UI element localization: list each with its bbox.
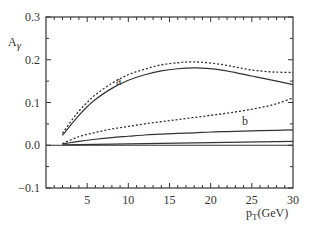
x-tick-label: 20	[205, 193, 217, 207]
x-tick-label: 5	[84, 193, 90, 207]
y-tick-label: −0.1	[18, 181, 40, 195]
y-tick-label: 0.0	[25, 138, 40, 152]
plot-frame	[46, 17, 293, 188]
axis-ticks	[46, 17, 293, 188]
curve-label-b: b	[242, 114, 248, 128]
chart: 51015202530−0.10.00.10.20.3 ab Aγ pT(GeV…	[0, 0, 314, 234]
curve-label-a: a	[116, 74, 122, 88]
curve-annotations: ab	[116, 74, 248, 127]
x-tick-label: 10	[122, 193, 134, 207]
x-tick-label: 25	[246, 193, 258, 207]
y-axis-title: Aγ	[8, 35, 22, 51]
curve-a-solid	[62, 68, 293, 136]
curve-b-dotted	[62, 98, 293, 144]
x-tick-label: 15	[164, 193, 176, 207]
curve-baseline-solid	[62, 141, 293, 144]
curves	[62, 62, 293, 145]
plot-border	[46, 17, 293, 188]
y-tick-label: 0.2	[25, 53, 40, 67]
tick-labels: 51015202530−0.10.00.10.20.3	[18, 10, 299, 207]
x-tick-label: 30	[287, 193, 299, 207]
y-tick-label: 0.3	[25, 10, 40, 24]
x-axis-title: pT(GeV)	[246, 206, 288, 222]
y-tick-label: 0.1	[25, 96, 40, 110]
